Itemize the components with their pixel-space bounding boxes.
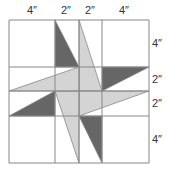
dark-top [55, 20, 79, 67]
top-dimension-label: 2″ [85, 5, 95, 16]
side-dimension-label: 4″ [152, 134, 162, 145]
top-dimension-label: 4″ [27, 5, 37, 16]
blade-bottom [55, 91, 79, 163]
quilt-block-diagram [0, 0, 172, 171]
dark-left [9, 91, 55, 116]
top-dimension-label: 2″ [61, 5, 71, 16]
blade-top [79, 20, 102, 91]
top-dimension-label: 4″ [119, 5, 129, 16]
side-dimension-label: 2″ [152, 98, 162, 109]
side-dimension-label: 4″ [152, 38, 162, 49]
blade-left [9, 67, 79, 91]
blade-right [79, 91, 149, 116]
dark-right [102, 67, 149, 91]
dark-bottom [79, 116, 102, 163]
side-dimension-label: 2″ [152, 74, 162, 85]
